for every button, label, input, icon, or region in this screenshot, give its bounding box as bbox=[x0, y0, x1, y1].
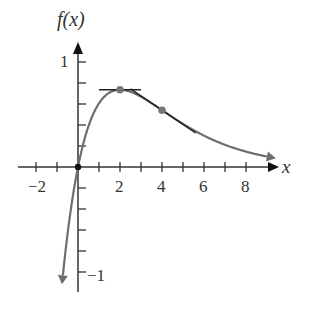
data-point bbox=[75, 164, 81, 170]
curve-arrow-down-icon bbox=[58, 275, 68, 284]
curve-arrow-right-icon bbox=[266, 152, 276, 162]
y-tick-label-1: 1 bbox=[60, 52, 69, 71]
function-plot: f(x) x −2 2 4 6 8 1 −1 bbox=[0, 0, 312, 315]
y-tick-label-neg1: −1 bbox=[87, 266, 105, 285]
data-point bbox=[158, 106, 166, 114]
x-tick-label-8: 8 bbox=[241, 177, 250, 196]
x-tick-label-2: 2 bbox=[115, 177, 124, 196]
y-axis-arrow-icon bbox=[73, 42, 83, 54]
x-tick-label-neg2: −2 bbox=[28, 177, 46, 196]
tangent-lines bbox=[99, 89, 196, 133]
data-point bbox=[116, 86, 124, 94]
x-tick-label-6: 6 bbox=[199, 177, 208, 196]
x-axis-arrow-icon bbox=[268, 162, 279, 172]
y-axis-label: f(x) bbox=[57, 8, 85, 31]
x-axis-label: x bbox=[281, 156, 291, 177]
x-tick-label-4: 4 bbox=[157, 177, 166, 196]
